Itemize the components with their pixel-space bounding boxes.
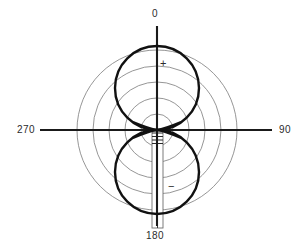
lower-lobe-polarity-label: − bbox=[168, 180, 174, 192]
angle-label-0: 0 bbox=[152, 8, 158, 19]
polar-plot-canvas bbox=[0, 0, 302, 251]
angle-label-270: 270 bbox=[17, 124, 35, 135]
polar-plot-figure: 0 180 270 90 + − bbox=[0, 0, 302, 251]
angle-label-180: 180 bbox=[146, 230, 164, 241]
angle-label-90: 90 bbox=[279, 124, 291, 135]
upper-lobe-polarity-label: + bbox=[160, 57, 166, 69]
